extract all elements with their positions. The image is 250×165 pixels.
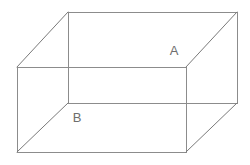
cuboid-wireframe-figure: Rectangular box wireframe diagram A B — [0, 0, 250, 165]
edge-oblique-top-left — [17, 12, 68, 67]
face-label-a: A — [170, 43, 179, 58]
edge-oblique-top-right — [186, 12, 237, 67]
edge-oblique-bottom-right — [186, 103, 237, 152]
face-label-b: B — [73, 110, 82, 125]
figure-canvas: Rectangular box wireframe diagram A B — [0, 0, 250, 165]
edge-oblique-bottom-left — [17, 103, 68, 152]
